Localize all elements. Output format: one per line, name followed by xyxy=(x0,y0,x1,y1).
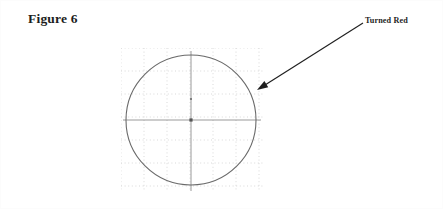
upper-point-marker xyxy=(190,98,192,100)
figure-canvas: Figure 6 Turned Red xyxy=(0,0,443,209)
annotation-leader-line xyxy=(265,23,363,85)
arrowhead-icon xyxy=(257,81,268,90)
annotation-label-turned-red: Turned Red xyxy=(365,16,408,25)
center-point-marker xyxy=(189,118,192,121)
technical-drawing xyxy=(1,1,443,209)
